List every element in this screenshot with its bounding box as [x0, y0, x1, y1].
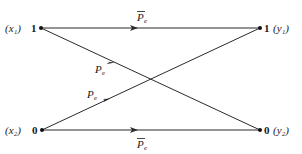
- svg-text:P: P: [94, 63, 102, 75]
- svg-text:e: e: [144, 17, 147, 25]
- svg-text:P: P: [136, 138, 144, 150]
- node-x1-dot: [39, 26, 43, 30]
- node-x2-dot: [40, 128, 44, 132]
- svg-text:e: e: [102, 69, 105, 77]
- svg-text:P: P: [136, 11, 144, 23]
- node-y1-dot: [258, 26, 262, 30]
- input-x2-symbol: 0: [32, 124, 38, 136]
- output-y1-symbol: 1: [264, 22, 270, 34]
- edge-label-x1-y1: P e: [136, 11, 147, 25]
- input-x1-label: (x₁): [5, 22, 21, 35]
- output-y2-symbol: 0: [264, 124, 270, 136]
- edge-label-x2-y1: P e: [86, 88, 97, 102]
- edge-label-x1-y2: P e: [94, 63, 105, 77]
- svg-text:e: e: [94, 94, 97, 102]
- channel-diagram: (x₁) 1 (x₂) 0 1 (y₁) 0 (y₂) P e P e P e …: [0, 0, 302, 154]
- output-y1-label: (y₁): [273, 22, 289, 35]
- svg-text:P: P: [86, 88, 94, 100]
- input-x1-symbol: 1: [31, 22, 37, 34]
- input-x2-label: (x₂): [5, 124, 21, 137]
- edge-label-x2-y2: P e: [136, 138, 147, 152]
- output-y2-label: (y₂): [273, 124, 289, 137]
- node-y2-dot: [258, 128, 262, 132]
- svg-text:e: e: [144, 144, 147, 152]
